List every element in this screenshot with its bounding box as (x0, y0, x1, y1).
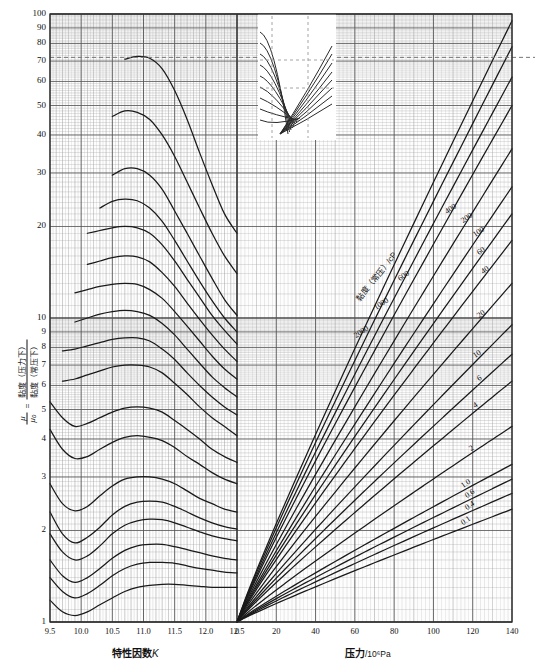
chart-canvas (0, 0, 535, 668)
x-axis-right-tick-label: 120 (462, 626, 484, 636)
y-axis-tick-label: 60 (20, 75, 46, 85)
y-axis-mu: μ (18, 413, 28, 425)
y-axis-tick-label: 2 (20, 524, 46, 534)
inset-white-overlay (258, 14, 336, 140)
inset-background (258, 14, 336, 140)
y-axis-tick-label: 40 (20, 129, 46, 139)
x-axis-left-tick-label: 10.5 (100, 626, 124, 636)
y-axis-tick-label: 1 (20, 616, 46, 626)
y-axis-tick-label: 100 (20, 8, 46, 18)
y-axis-tick-label: 70 (20, 55, 46, 65)
x-axis-left-tick-label: 11.5 (163, 626, 187, 636)
x-axis-right-tick-label: 40 (305, 626, 327, 636)
x-axis-right-tick-label: 20 (265, 626, 287, 636)
x-axis-left-title: 特性因数K (112, 645, 159, 660)
y-axis-tick-label: 20 (20, 220, 46, 230)
y-axis-tick-label: 3 (20, 471, 46, 481)
x-axis-right-title-text: 压力 (345, 648, 365, 659)
y-axis-numerator-cn: 黏度（压力下） (16, 340, 28, 400)
viscosity-pressure-nomograph: 1234567891020304050607080901009.510.010.… (0, 0, 535, 668)
y-axis-tick-label: 80 (20, 37, 46, 47)
x-axis-right-title-unit: /10⁶Pa (365, 649, 391, 659)
x-axis-right-tick-label: 80 (383, 626, 405, 636)
y-axis-title: μ μ₀ = 黏度（压力下） 黏度（常压下） (2, 318, 48, 438)
x-axis-right-tick-label: 100 (422, 626, 444, 636)
x-axis-right-tick-label: 140 (501, 626, 523, 636)
x-axis-left-tick-label: 10.0 (69, 626, 93, 636)
y-axis-tick-label: 30 (20, 167, 46, 177)
x-axis-left-title-symbol: K (152, 648, 159, 659)
x-axis-left-tick-label: 9.5 (38, 626, 62, 636)
y-axis-tick-label: 90 (20, 22, 46, 32)
y-axis-mu0: μ₀ (28, 413, 37, 425)
x-axis-left-tick-label: 11.0 (132, 626, 156, 636)
x-axis-left-tick-label: 12.0 (194, 626, 218, 636)
x-axis-right-title: 压力/10⁶Pa (345, 645, 391, 660)
y-axis-tick-label: 50 (20, 100, 46, 110)
x-axis-right-tick-label: 0 (226, 626, 248, 636)
x-axis-left-title-text: 特性因数 (112, 648, 152, 659)
y-axis-denominator-cn: 黏度（常压下） (28, 340, 39, 400)
equals-sign: = (23, 402, 32, 411)
x-axis-right-tick-label: 60 (344, 626, 366, 636)
